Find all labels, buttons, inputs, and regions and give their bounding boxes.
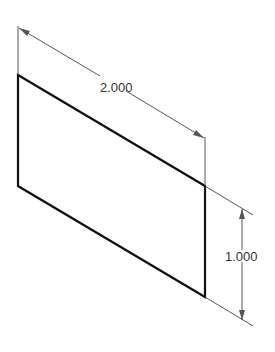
extension-line-top: [205, 186, 253, 215]
dimension-line-width-a: [19, 28, 100, 76]
dimension-line-width-b: [126, 91, 204, 138]
extension-line-bottom: [205, 297, 253, 326]
shape-outline: [18, 75, 205, 297]
arrowhead-icon: [239, 209, 245, 219]
arrowhead-icon: [193, 130, 204, 138]
dimension-label-width: 2.000: [100, 80, 133, 95]
dimension-label-height: 1.000: [225, 249, 258, 264]
isometric-drawing: 2.000 1.000: [0, 0, 275, 352]
arrowhead-icon: [19, 28, 30, 36]
